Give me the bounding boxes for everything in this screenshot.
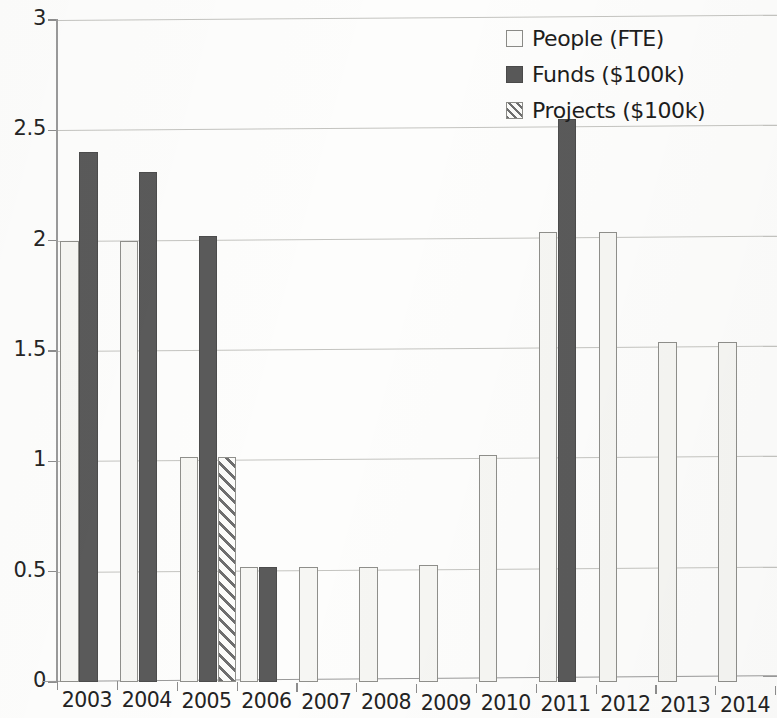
y-tick-label: 3 [0, 6, 46, 30]
bar-group [356, 20, 416, 682]
legend: People (FTE) Funds ($100k) Projects ($10… [506, 20, 768, 128]
legend-item-people[interactable]: People (FTE) [506, 20, 768, 56]
bar-group [57, 20, 117, 682]
x-tick-label-2007: 2007 [294, 690, 358, 714]
bar-people-2006[interactable] [240, 567, 259, 682]
bar-funds-2003[interactable] [79, 152, 98, 682]
y-tick-label: 1 [0, 447, 46, 471]
x-tick-label-2004: 2004 [115, 688, 179, 712]
bar-people-2003[interactable] [60, 241, 79, 682]
bar-funds-2004[interactable] [139, 172, 158, 682]
legend-item-projects[interactable]: Projects ($100k) [506, 92, 768, 128]
bar-people-2014[interactable] [718, 342, 737, 682]
bar-group [117, 20, 177, 682]
bar-people-2010[interactable] [479, 455, 498, 682]
x-tick-label-2011: 2011 [534, 692, 598, 716]
x-tick-label-2005: 2005 [175, 689, 239, 713]
bar-group [296, 20, 356, 682]
x-tick-label-2014: 2014 [713, 693, 777, 717]
bar-people-2009[interactable] [419, 565, 438, 682]
legend-label-funds: Funds ($100k) [532, 62, 684, 87]
legend-label-people: People (FTE) [532, 26, 664, 51]
bar-funds-2011[interactable] [558, 119, 577, 682]
legend-swatch-funds-icon [506, 66, 523, 83]
x-tick-label-2013: 2013 [653, 693, 717, 717]
legend-item-funds[interactable]: Funds ($100k) [506, 56, 768, 92]
y-tick-label: 2 [0, 227, 46, 251]
bar-people-2008[interactable] [359, 567, 378, 682]
x-tick-label-2003: 2003 [55, 688, 119, 712]
bar-group [416, 20, 476, 682]
bar-funds-2006[interactable] [259, 567, 278, 682]
bar-people-2012[interactable] [599, 232, 618, 682]
bar-funds-2005[interactable] [199, 236, 218, 682]
x-tick-label-2008: 2008 [354, 690, 418, 714]
bar-people-2011[interactable] [539, 232, 558, 682]
legend-swatch-people-icon [506, 30, 523, 47]
bar-group [237, 20, 297, 682]
legend-label-projects: Projects ($100k) [532, 98, 705, 123]
bar-people-2005[interactable] [180, 457, 199, 682]
x-tick-label-2006: 2006 [234, 689, 298, 713]
y-tick-label: 1.5 [0, 337, 46, 361]
y-tick-label: 0.5 [0, 558, 46, 582]
x-tick-label-2009: 2009 [414, 691, 478, 715]
legend-swatch-projects-icon [506, 102, 523, 119]
bar-chart: 00.511.522.53 20032004200520062007200820… [0, 0, 777, 718]
y-tick-label: 2.5 [0, 116, 46, 140]
bar-people-2004[interactable] [120, 241, 139, 682]
x-tick-mark [775, 686, 776, 695]
x-tick-label-2012: 2012 [593, 692, 657, 716]
bar-people-2013[interactable] [658, 342, 677, 682]
bar-projects-2005[interactable] [218, 457, 237, 682]
y-tick-label: 0 [0, 668, 46, 692]
x-tick-label-2010: 2010 [474, 691, 538, 715]
bar-people-2007[interactable] [299, 567, 318, 682]
bar-group [177, 20, 237, 682]
